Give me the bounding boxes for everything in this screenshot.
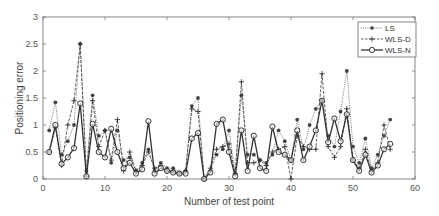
data-point — [246, 153, 250, 157]
data-point — [239, 128, 244, 133]
data-point — [350, 158, 355, 163]
y-tick-label: 3 — [33, 12, 38, 22]
data-point — [127, 160, 132, 165]
data-point — [363, 152, 368, 157]
data-point — [251, 133, 256, 138]
x-tick-label: 40 — [286, 183, 296, 193]
data-point — [164, 168, 169, 173]
data-point — [345, 69, 349, 73]
data-point — [140, 167, 145, 172]
data-point — [220, 117, 225, 122]
data-point — [257, 166, 262, 171]
data-point — [295, 128, 300, 133]
data-point — [84, 174, 89, 179]
data-point — [233, 174, 238, 179]
data-point — [227, 129, 231, 133]
data-point — [332, 116, 337, 121]
data-point — [195, 131, 200, 136]
data-point — [47, 129, 51, 133]
data-point — [326, 140, 331, 145]
data-point — [121, 166, 126, 171]
data-point — [146, 119, 151, 124]
x-tick-label: 20 — [162, 183, 172, 193]
data-point — [344, 112, 349, 117]
data-point — [65, 155, 70, 160]
y-tick-label: 1 — [33, 120, 38, 130]
x-tick-label: 10 — [100, 183, 110, 193]
data-point — [47, 149, 52, 154]
data-point — [313, 128, 318, 133]
data-point — [338, 139, 343, 144]
legend-label-wls-n: WLS-N — [385, 46, 411, 55]
data-point — [189, 136, 194, 141]
data-point — [314, 107, 318, 111]
data-point — [158, 166, 163, 171]
y-tick-label: 2 — [33, 66, 38, 76]
data-point — [307, 144, 312, 149]
data-point — [252, 153, 256, 157]
data-point — [277, 129, 281, 133]
data-point — [78, 101, 83, 106]
open-circle-marker-icon — [369, 47, 374, 52]
data-point — [364, 137, 368, 141]
data-point — [282, 152, 287, 157]
data-point — [381, 147, 386, 152]
data-point — [66, 139, 70, 143]
data-point — [171, 170, 176, 175]
legend-label-wls-d: WLS-D — [385, 35, 411, 44]
data-point — [102, 155, 107, 160]
data-point — [288, 158, 293, 163]
data-point — [72, 123, 76, 127]
data-point — [276, 149, 281, 154]
legend-label-ls: LS — [385, 24, 395, 33]
data-point — [357, 168, 362, 173]
x-tick-label: 30 — [224, 183, 234, 193]
x-tick-label: 60 — [410, 183, 420, 193]
data-point — [375, 163, 380, 168]
data-point — [388, 141, 393, 146]
data-point — [301, 158, 306, 163]
data-point — [177, 171, 182, 176]
data-point — [388, 118, 392, 122]
data-point — [369, 170, 374, 175]
y-axis-label: Positioning error — [14, 61, 25, 134]
data-point — [339, 110, 343, 114]
y-tick-label: 0.5 — [25, 147, 38, 157]
y-tick-label: 1.5 — [25, 93, 38, 103]
data-point — [71, 146, 76, 151]
data-point — [214, 121, 219, 126]
data-point — [152, 171, 157, 176]
data-point — [319, 98, 324, 103]
data-point — [295, 118, 299, 122]
data-point — [202, 176, 207, 181]
data-point — [245, 168, 250, 173]
filled-dot-marker-icon — [370, 26, 374, 30]
data-point — [59, 161, 64, 166]
data-point — [226, 149, 231, 154]
data-point — [90, 121, 95, 126]
data-point — [54, 100, 58, 104]
x-axis-label: Number of test point — [184, 196, 274, 207]
data-point — [283, 139, 287, 143]
data-point — [96, 149, 101, 154]
legend: LS WLS-D WLS-N — [358, 22, 416, 57]
data-point — [208, 170, 213, 175]
positioning-error-chart: 0102030405060 00.511.522.53 Number of te… — [0, 0, 439, 216]
data-point — [53, 122, 58, 127]
data-point — [270, 124, 275, 129]
x-tick-label: 0 — [40, 183, 45, 193]
data-point — [133, 171, 138, 176]
data-point — [308, 123, 312, 127]
data-point — [333, 145, 337, 149]
data-point — [196, 96, 200, 100]
x-tick-label: 50 — [348, 183, 358, 193]
y-tick-label: 2.5 — [25, 39, 38, 49]
data-point — [115, 149, 120, 154]
data-point — [264, 168, 269, 173]
data-point — [183, 171, 188, 176]
y-tick-label: 0 — [33, 174, 38, 184]
data-point — [109, 126, 114, 131]
data-point — [91, 93, 95, 97]
